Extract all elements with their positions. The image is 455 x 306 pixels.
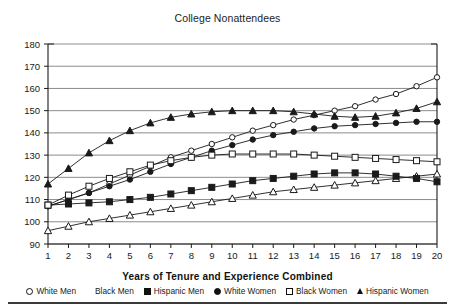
data-point-marker bbox=[209, 184, 215, 190]
x-axis-label: Years of Tenure and Experience Combined bbox=[0, 271, 455, 282]
filled-square-icon bbox=[144, 288, 151, 295]
data-point-marker bbox=[434, 179, 440, 185]
data-point-marker bbox=[373, 171, 379, 177]
data-point-marker bbox=[434, 75, 439, 80]
data-point-marker bbox=[86, 190, 91, 195]
data-point-marker bbox=[352, 154, 358, 160]
legend-item-hispanic-men[interactable]: Hispanic Men bbox=[144, 286, 204, 296]
x-tick-label: 12 bbox=[268, 250, 279, 261]
legend-item-white-men[interactable]: White Men bbox=[26, 286, 76, 296]
filled-triangle-icon bbox=[357, 288, 363, 294]
data-point-marker bbox=[229, 181, 235, 187]
data-point-marker bbox=[65, 165, 72, 172]
data-point-marker bbox=[373, 121, 378, 126]
data-point-marker bbox=[311, 171, 317, 177]
y-tick-label: 100 bbox=[24, 216, 40, 227]
data-point-marker bbox=[270, 151, 276, 157]
data-point-marker bbox=[393, 91, 398, 96]
data-point-marker bbox=[291, 173, 297, 179]
data-point-marker bbox=[271, 122, 276, 127]
data-point-marker bbox=[147, 194, 153, 200]
data-point-marker bbox=[413, 105, 420, 112]
legend-item-label: White Women bbox=[224, 286, 276, 296]
data-point-marker bbox=[107, 184, 112, 189]
data-point-marker bbox=[106, 137, 113, 144]
data-point-marker bbox=[250, 128, 255, 133]
open-circle-icon bbox=[26, 288, 33, 295]
data-point-marker bbox=[393, 173, 399, 179]
data-point-marker bbox=[65, 192, 71, 198]
y-tick-label: 130 bbox=[24, 150, 40, 161]
legend-item-white-women[interactable]: White Women bbox=[214, 286, 276, 296]
data-point-marker bbox=[352, 122, 357, 127]
data-point-marker bbox=[414, 119, 419, 124]
data-point-marker bbox=[189, 148, 194, 153]
data-point-marker bbox=[168, 158, 174, 164]
legend-item-black-men[interactable]: Black Men bbox=[86, 286, 134, 296]
data-point-marker bbox=[230, 142, 235, 147]
data-point-marker bbox=[45, 202, 51, 208]
data-point-marker bbox=[127, 197, 133, 203]
data-point-marker bbox=[270, 175, 276, 181]
chart-svg: 9010011012013014015016017018012345678910… bbox=[0, 0, 455, 306]
y-tick-label: 140 bbox=[24, 127, 40, 138]
data-point-marker bbox=[291, 151, 297, 157]
x-tick-label: 2 bbox=[66, 250, 71, 261]
data-point-marker bbox=[352, 104, 357, 109]
x-tick-label: 10 bbox=[227, 250, 238, 261]
legend-item-hispanic-women[interactable]: Hispanic Women bbox=[357, 286, 429, 296]
y-tick-label: 150 bbox=[24, 105, 40, 116]
data-point-marker bbox=[434, 159, 440, 165]
data-point-marker bbox=[148, 169, 153, 174]
data-point-marker bbox=[373, 97, 378, 102]
data-point-marker bbox=[106, 175, 112, 181]
data-point-marker bbox=[44, 180, 51, 187]
legend-item-label: Hispanic Women bbox=[366, 286, 429, 296]
x-tick-label: 1 bbox=[45, 250, 50, 261]
data-point-marker bbox=[209, 141, 214, 146]
x-tick-label: 19 bbox=[411, 250, 422, 261]
x-tick-label: 11 bbox=[248, 250, 258, 261]
data-point-marker bbox=[229, 151, 235, 157]
data-point-marker bbox=[414, 158, 420, 164]
x-tick-label: 7 bbox=[168, 250, 173, 261]
data-point-marker bbox=[291, 117, 296, 122]
data-point-marker bbox=[291, 129, 296, 134]
open-triangle-icon bbox=[86, 288, 92, 294]
y-tick-label: 170 bbox=[24, 61, 40, 72]
data-point-marker bbox=[434, 119, 439, 124]
x-tick-label: 5 bbox=[127, 250, 132, 261]
data-point-marker bbox=[373, 155, 379, 161]
data-point-marker bbox=[393, 120, 398, 125]
data-point-marker bbox=[106, 199, 112, 205]
legend-item-label: Black Men bbox=[95, 286, 134, 296]
data-point-marker bbox=[85, 149, 92, 156]
data-point-marker bbox=[271, 132, 276, 137]
legend-item-label: White Men bbox=[36, 286, 76, 296]
data-point-marker bbox=[86, 183, 92, 189]
x-tick-label: 3 bbox=[86, 250, 91, 261]
data-point-marker bbox=[127, 169, 133, 175]
bottom-divider bbox=[8, 302, 447, 304]
legend-item-label: Black Women bbox=[296, 286, 347, 296]
data-point-marker bbox=[86, 200, 92, 206]
chart-page: College Nonattendees 9010011012013014015… bbox=[0, 0, 455, 306]
data-point-marker bbox=[332, 153, 338, 159]
legend-item-black-women[interactable]: Black Women bbox=[286, 286, 347, 296]
series-hispanic-men bbox=[45, 170, 440, 208]
data-point-marker bbox=[352, 170, 358, 176]
y-tick-label: 120 bbox=[24, 172, 40, 183]
data-point-marker bbox=[230, 135, 235, 140]
series-white-men bbox=[45, 75, 439, 209]
data-point-marker bbox=[127, 177, 132, 182]
x-tick-label: 15 bbox=[329, 250, 340, 261]
filled-circle-icon bbox=[214, 288, 221, 295]
x-tick-label: 13 bbox=[288, 250, 299, 261]
data-point-marker bbox=[414, 175, 420, 181]
x-tick-label: 9 bbox=[209, 250, 214, 261]
x-tick-label: 16 bbox=[350, 250, 361, 261]
x-tick-label: 6 bbox=[148, 250, 153, 261]
plot-area: 9010011012013014015016017018012345678910… bbox=[0, 0, 455, 306]
data-point-marker bbox=[126, 127, 133, 134]
data-point-marker bbox=[147, 162, 153, 168]
